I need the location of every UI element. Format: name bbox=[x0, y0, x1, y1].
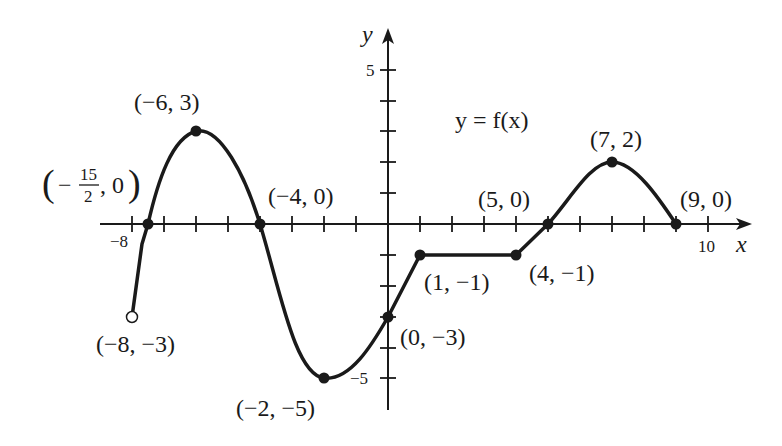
paren-close: ) bbox=[128, 162, 141, 205]
open-point-neg8-neg3 bbox=[127, 312, 138, 323]
tick-label-y-5: 5 bbox=[366, 61, 375, 80]
point-neg2-neg5 bbox=[319, 373, 330, 384]
label-point-neg7.5-0: ( − 15 2 , 0 ) bbox=[42, 162, 141, 206]
point-0-neg3 bbox=[383, 312, 394, 323]
tick-label-y-neg5: −5 bbox=[350, 369, 368, 388]
label-point-neg4-0: (−4, 0) bbox=[268, 183, 334, 209]
label-point-neg2-neg5: (−2, −5) bbox=[236, 395, 315, 421]
fraction-minus: − bbox=[58, 172, 72, 198]
point-9-0 bbox=[671, 219, 682, 230]
point-1-neg1 bbox=[415, 250, 426, 261]
function-label: y = f(x) bbox=[455, 107, 529, 133]
point-neg6-3 bbox=[191, 126, 202, 137]
point-neg4-0 bbox=[255, 219, 266, 230]
label-point-4-neg1: (4, −1) bbox=[529, 260, 595, 286]
y-axis bbox=[380, 28, 396, 410]
tick-label-x-neg8: −8 bbox=[110, 232, 128, 251]
paren-open: ( bbox=[42, 162, 55, 205]
point-4-neg1 bbox=[511, 250, 522, 261]
label-point-neg6-3: (−6, 3) bbox=[134, 89, 200, 115]
fraction-tail: , 0 bbox=[100, 172, 124, 198]
label-point-7-2: (7, 2) bbox=[590, 126, 642, 152]
label-point-0-neg3: (0, −3) bbox=[400, 324, 466, 350]
label-point-1-neg1: (1, −1) bbox=[424, 269, 490, 295]
fraction-numerator: 15 bbox=[80, 165, 97, 184]
point-5-0 bbox=[543, 219, 554, 230]
x-axis-label: x bbox=[735, 231, 747, 257]
point-7-2 bbox=[607, 157, 618, 168]
label-point-9-0: (9, 0) bbox=[680, 186, 732, 212]
x-axis bbox=[100, 216, 752, 232]
tick-label-x-10: 10 bbox=[698, 237, 715, 256]
label-point-neg8-neg3: (−8, −3) bbox=[96, 331, 175, 357]
label-point-5-0: (5, 0) bbox=[478, 186, 530, 212]
fraction-denominator: 2 bbox=[84, 187, 93, 206]
function-graph: y x 5 −5 −8 10 y = f(x) (−6, 3) (−4, 0) … bbox=[0, 0, 782, 446]
point-neg7.5-0 bbox=[143, 219, 154, 230]
y-axis-label: y bbox=[360, 21, 373, 47]
